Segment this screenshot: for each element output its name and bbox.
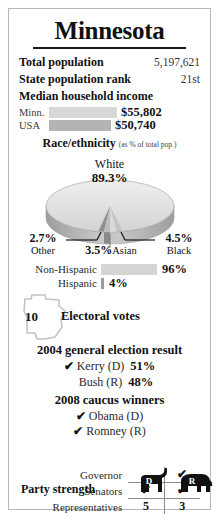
electoral-votes-block: 10 Electoral votes bbox=[9, 291, 210, 343]
state-fact-card: Minnesota Total population 5,197,621 Sta… bbox=[8, 8, 211, 510]
electoral-votes-number: 10 bbox=[25, 309, 38, 325]
pie-main-label: White 89.3% bbox=[9, 158, 210, 184]
caucus-winner-name: Obama (D) bbox=[89, 409, 143, 424]
race-heading-note: (as % of total pop.) bbox=[119, 140, 177, 149]
ethnicity-value: 4% bbox=[109, 276, 128, 291]
ethnicity-row-non-hispanic: Non-Hispanic 96% bbox=[19, 262, 200, 276]
check-icon: ✔ bbox=[76, 409, 89, 424]
caucus-row-romney: ✔ Romney (R) bbox=[19, 424, 200, 439]
income-row-label: Minn. bbox=[19, 107, 49, 118]
candidate-pct: 51% bbox=[130, 359, 155, 375]
stat-value: 21st bbox=[181, 73, 200, 85]
caucus-heading: 2008 caucus winners bbox=[19, 393, 200, 408]
income-row-minnesota: Minn. $55,802 bbox=[19, 106, 200, 119]
pie-label-other: 2.7% Other bbox=[15, 232, 71, 256]
caucus-row-obama: ✔ Obama (D) bbox=[19, 409, 200, 424]
race-pie-chart: White 89.3% 2.7% Other 3.5%Asian 4.5% Bl… bbox=[9, 152, 210, 256]
ethnicity-bar bbox=[101, 264, 157, 275]
page-title: Minnesota bbox=[19, 18, 200, 43]
race-ethnicity-heading: Race/ethnicity (as % of total pop.) bbox=[19, 136, 200, 151]
ethnicity-row-hispanic: Hispanic 4% bbox=[19, 276, 200, 290]
candidate-pct: 48% bbox=[128, 375, 153, 391]
pie-label-asian: 3.5%Asian bbox=[73, 244, 149, 257]
general-election-heading: 2004 general election result bbox=[19, 343, 200, 358]
stat-row-population-rank: State population rank 21st bbox=[19, 72, 200, 87]
check-icon: ✔ bbox=[64, 359, 77, 374]
party-strength-block: Party strength D R Governor ✔ S bbox=[19, 467, 200, 514]
check-icon: ✔ bbox=[73, 424, 86, 439]
rep-cell: 3 bbox=[164, 499, 200, 515]
median-income-heading: Median household income bbox=[19, 89, 200, 104]
pie-black-name: Black bbox=[167, 245, 192, 256]
candidate-row-bush: Bush (R) 48% bbox=[19, 375, 200, 391]
elephant-icon: R bbox=[181, 474, 212, 492]
income-row-label: USA bbox=[19, 120, 49, 131]
stat-row-total-population: Total population 5,197,621 bbox=[19, 55, 200, 70]
ethnicity-value: 96% bbox=[162, 262, 187, 277]
candidate-name: Kerry (D) bbox=[77, 359, 125, 374]
ethnicity-label: Non-Hispanic bbox=[19, 263, 101, 275]
row-label: Governor bbox=[19, 467, 128, 483]
electoral-votes-label: Electoral votes bbox=[61, 309, 140, 324]
pie-black-pct: 4.5% bbox=[166, 231, 193, 245]
income-bar bbox=[49, 107, 117, 118]
stat-label: Total population bbox=[19, 55, 104, 70]
dem-cell: 5 bbox=[128, 499, 164, 515]
race-heading-text: Race/ethnicity bbox=[42, 136, 115, 150]
candidate-row-kerry: ✔ Kerry (D) 51% bbox=[19, 359, 200, 375]
median-income-chart: Minn. $55,802 USA $50,740 bbox=[19, 106, 200, 132]
caucus-winner-name: Romney (R) bbox=[86, 424, 146, 439]
ethnicity-bar bbox=[101, 278, 104, 289]
pie-asian-name: Asian bbox=[112, 245, 137, 256]
pie-other-name: Other bbox=[31, 245, 55, 256]
pie-label-black: 4.5% Black bbox=[151, 232, 207, 256]
pie-white-pct: 89.3% bbox=[92, 170, 128, 185]
elephant-letter: R bbox=[189, 476, 196, 486]
donkey-icon: D bbox=[141, 468, 167, 492]
party-strength-heading: Party strength bbox=[21, 482, 95, 497]
pie-other-pct: 2.7% bbox=[30, 231, 57, 245]
table-row: Representatives 5 3 bbox=[19, 499, 200, 515]
pie-asian-pct: 3.5% bbox=[85, 243, 112, 257]
ethnicity-label: Hispanic bbox=[19, 277, 101, 289]
candidate-name: Bush (R) bbox=[79, 375, 123, 390]
income-bar bbox=[49, 120, 111, 131]
income-row-usa: USA $50,740 bbox=[19, 119, 200, 132]
stat-label: State population rank bbox=[19, 72, 131, 87]
row-label: Representatives bbox=[19, 499, 128, 515]
party-icons: D R bbox=[137, 467, 215, 493]
donkey-letter: D bbox=[146, 476, 153, 486]
title-underline bbox=[33, 47, 186, 49]
income-value: $50,740 bbox=[115, 118, 156, 133]
stat-value: 5,197,621 bbox=[154, 56, 200, 68]
